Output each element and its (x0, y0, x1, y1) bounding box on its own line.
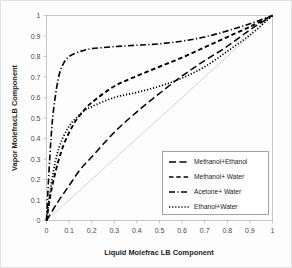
vle-xy-chart: 00.10.20.30.40.50.60.70.80.91 00.10.20.3… (1, 1, 292, 268)
x-tick-label: 0.1 (64, 227, 74, 234)
y-tick-label: 0.2 (31, 176, 41, 183)
y-tick-label: 0.1 (31, 197, 41, 204)
legend-item-label: Ethanol+Water (194, 203, 238, 210)
x-tick-label: 0.7 (200, 227, 210, 234)
x-tick-label: 0.6 (177, 227, 187, 234)
x-tick-label: 0.5 (155, 227, 165, 234)
legend-item-label: Acetone+ Water (194, 188, 242, 195)
chart-legend[interactable]: Methanol+EthanolMethanol+ WaterAcetone+ … (163, 152, 269, 215)
x-tick-label: 0.3 (109, 227, 119, 234)
y-axis-tickmarks (44, 16, 47, 221)
x-axis-title: Liquid Molefrac LB Component (104, 248, 214, 257)
chart-figure: 00.10.20.30.40.50.60.70.80.91 00.10.20.3… (0, 0, 292, 268)
legend-item-label: Methanol+ Water (194, 173, 245, 180)
y-tick-label: 0.3 (31, 156, 41, 163)
x-tick-label: 0 (45, 227, 49, 234)
y-tick-label: 0.6 (31, 94, 41, 101)
x-tick-label: 1 (271, 227, 275, 234)
x-axis-tickmarks (47, 221, 273, 224)
legend-item-label: Methanol+Ethanol (194, 158, 248, 165)
x-tick-label: 0.8 (222, 227, 232, 234)
y-tick-label: 0.8 (31, 53, 41, 60)
y-tick-label: 0 (37, 217, 41, 224)
x-tick-label: 0.2 (87, 227, 97, 234)
y-tick-label: 0.4 (31, 135, 41, 142)
y-axis-title: Vapor MolefracLB Component (10, 64, 19, 170)
y-tick-label: 0.5 (31, 115, 41, 122)
y-tick-label: 0.7 (31, 74, 41, 81)
x-tick-label: 0.4 (132, 227, 142, 234)
y-tick-label: 0.9 (31, 33, 41, 40)
x-tick-label: 0.9 (245, 227, 255, 234)
y-axis-tick-labels: 00.10.20.30.40.50.60.70.80.91 (31, 12, 41, 224)
y-tick-label: 1 (37, 12, 41, 19)
x-axis-tick-labels: 00.10.20.30.40.50.60.70.80.91 (45, 227, 275, 234)
